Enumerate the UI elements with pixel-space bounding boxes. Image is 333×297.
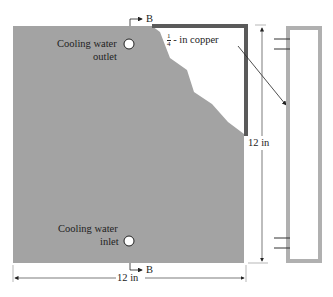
height-dimension: 12 in	[248, 137, 269, 148]
copper-label: 1 4 - in copper	[167, 33, 219, 48]
inlet-label-1: Cooling water	[58, 223, 118, 234]
inlet-port	[124, 236, 134, 246]
side-elevation	[288, 28, 320, 261]
inlet-label-2: inlet	[100, 236, 119, 247]
section-marker-bottom: B	[146, 264, 153, 275]
outlet-label-2: outlet	[93, 51, 117, 62]
width-dimension: 12 in	[117, 272, 138, 283]
plate-body	[13, 26, 244, 263]
section-marker-top: B	[146, 13, 153, 24]
outlet-port	[124, 39, 134, 49]
outlet-label-1: Cooling water	[57, 38, 117, 49]
